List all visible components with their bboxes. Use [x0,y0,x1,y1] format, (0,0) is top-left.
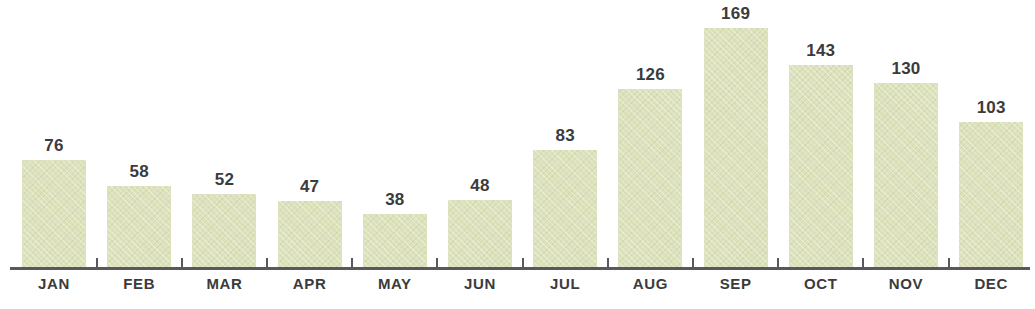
bar-aug[interactable] [618,89,682,268]
bar-sep[interactable] [704,28,768,268]
bar-value-label-apr: 47 [278,178,342,195]
bar-value-label-feb: 58 [107,163,171,180]
x-axis-category-labels: JANFEBMARAPRMAYJUNJULAUGSEPOCTNOVDEC [0,274,1035,302]
bar-dec[interactable] [959,122,1023,268]
bar-value-label-dec: 103 [959,99,1023,116]
bar-chart: JANFEBMARAPRMAYJUNJULAUGSEPOCTNOVDEC 765… [0,0,1035,309]
category-label-nov: NOV [874,274,938,294]
bars-layer [0,0,1035,268]
axis-tick [181,258,183,268]
axis-tick [351,258,353,268]
axis-tick [948,258,950,268]
bar-group [363,0,427,268]
axis-tick [522,258,524,268]
category-label-jun: JUN [448,274,512,294]
axis-tick [436,258,438,268]
plot-area: JANFEBMARAPRMAYJUNJULAUGSEPOCTNOVDEC 765… [0,0,1035,309]
bar-mar[interactable] [192,194,256,268]
bar-value-label-oct: 143 [789,42,853,59]
x-axis-line [10,267,1030,270]
category-label-feb: FEB [107,274,171,294]
axis-tick [862,258,864,268]
category-label-jul: JUL [533,274,597,294]
bar-feb[interactable] [107,186,171,268]
bar-group [704,0,768,268]
bar-value-label-mar: 52 [192,171,256,188]
bar-value-label-may: 38 [363,191,427,208]
bar-group [192,0,256,268]
bar-group [107,0,171,268]
bar-jun[interactable] [448,200,512,268]
bar-group [959,0,1023,268]
bar-group [874,0,938,268]
axis-tick [96,258,98,268]
bar-value-label-jun: 48 [448,177,512,194]
category-label-sep: SEP [704,274,768,294]
bar-oct[interactable] [789,65,853,268]
bar-group [448,0,512,268]
bar-may[interactable] [363,214,427,268]
bar-jul[interactable] [533,150,597,268]
category-label-dec: DEC [959,274,1023,294]
bar-value-label-aug: 126 [618,66,682,83]
bar-apr[interactable] [278,201,342,268]
category-label-mar: MAR [192,274,256,294]
bar-nov[interactable] [874,83,938,268]
category-label-oct: OCT [789,274,853,294]
axis-tick [777,258,779,268]
bar-value-label-jan: 76 [22,137,86,154]
bar-value-label-sep: 169 [704,5,768,22]
category-label-jan: JAN [22,274,86,294]
axis-tick [266,258,268,268]
category-label-aug: AUG [618,274,682,294]
axis-tick [607,258,609,268]
axis-tick [692,258,694,268]
bar-group [22,0,86,268]
bar-jan[interactable] [22,160,86,268]
bar-value-label-nov: 130 [874,60,938,77]
bar-value-label-jul: 83 [533,127,597,144]
bar-group [618,0,682,268]
bar-group [278,0,342,268]
category-label-may: MAY [363,274,427,294]
category-label-apr: APR [278,274,342,294]
